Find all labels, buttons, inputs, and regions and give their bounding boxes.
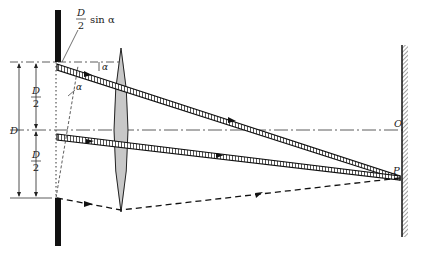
label-path-diff-den: 2 — [78, 20, 84, 31]
label-alpha-top: α — [102, 62, 108, 72]
beam-top — [57, 64, 400, 180]
screen — [402, 45, 408, 237]
pointer-line-alpha — [68, 90, 75, 96]
ray-bottom-dashed — [57, 178, 400, 210]
perpendicular-line — [56, 66, 78, 198]
label-alpha-slit: α — [76, 82, 82, 92]
label-half-top-num: D — [31, 85, 40, 96]
label-point-O: O — [394, 118, 402, 129]
label-half-bottom-den: 2 — [33, 162, 39, 173]
label-path-diff-num: D — [76, 7, 85, 18]
arrow-icon — [255, 192, 263, 198]
label-half-top-den: 2 — [33, 98, 39, 109]
dimension-half-top — [34, 63, 38, 129]
beam-middle — [57, 134, 400, 180]
label-half-bottom-num: D — [31, 149, 40, 160]
lens — [114, 48, 128, 212]
slit-plate-bottom — [55, 198, 61, 246]
slit-plate-top — [55, 10, 61, 62]
label-point-P: P — [392, 165, 400, 176]
pointer-line — [62, 30, 78, 62]
diffraction-diagram: D 2 sin α α α D D 2 D 2 O P — [0, 0, 425, 261]
arrow-icon — [84, 201, 93, 207]
slit-plate — [55, 10, 61, 246]
label-D-total: D — [9, 125, 18, 136]
label-path-diff-suffix: sin α — [90, 14, 115, 25]
